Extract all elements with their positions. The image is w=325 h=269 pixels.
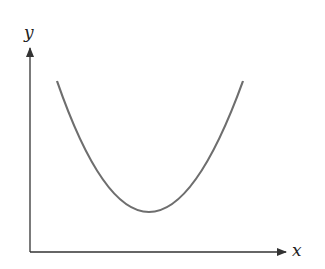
diagram-canvas bbox=[0, 0, 325, 269]
x-axis-label: x bbox=[292, 240, 302, 260]
y-axis-label: y bbox=[24, 22, 34, 42]
parabola-curve bbox=[57, 81, 243, 212]
